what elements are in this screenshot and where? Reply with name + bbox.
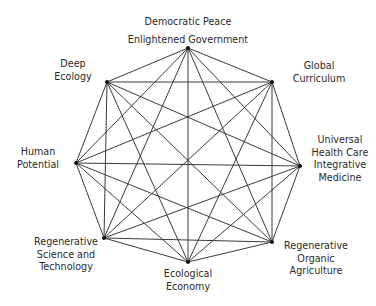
label-line: Integrative	[305, 159, 375, 172]
node-top	[186, 46, 190, 50]
label-deep-ecology: Deep Ecology	[48, 58, 98, 83]
label-line: Enlightened Government	[118, 34, 258, 47]
label-line: Ecology	[48, 71, 98, 84]
label-line: Health Care	[305, 147, 375, 160]
node-right	[298, 164, 302, 168]
edge-right-bottom-left	[104, 166, 300, 238]
label-line: Economy	[153, 281, 223, 294]
label-line: Ecological	[153, 268, 223, 281]
edge-bottom-left-top-left	[104, 82, 107, 238]
node-bottom	[186, 260, 190, 264]
node-top-left	[105, 80, 109, 84]
node-left	[74, 161, 78, 165]
edge-bottom-left-left	[76, 163, 104, 238]
label-line: Universal	[305, 134, 375, 147]
edge-top-right-bottom	[188, 82, 272, 262]
edge-left-top-left	[76, 82, 107, 163]
label-line: Potential	[8, 159, 68, 172]
label-line: Organic	[276, 253, 356, 266]
label-regenerative-agriculture: Regenerative Organic Agriculture	[276, 240, 356, 278]
edge-bottom-right-bottom	[188, 242, 272, 262]
label-line: Science and	[26, 249, 106, 262]
edge-top-right-right	[272, 82, 300, 166]
label-democratic-peace: Democratic Peace Enlightened Government	[118, 16, 258, 46]
label-universal-health-care: Universal Health Care Integrative Medici…	[305, 134, 375, 184]
label-line: Global	[284, 60, 354, 73]
label-line: Regenerative	[26, 236, 106, 249]
edge-bottom-bottom-left	[104, 238, 188, 262]
node-bottom-right	[270, 240, 274, 244]
node-top-right	[270, 80, 274, 84]
label-ecological-economy: Ecological Economy	[153, 268, 223, 293]
label-line: Human	[8, 146, 68, 159]
label-regenerative-science: Regenerative Science and Technology	[26, 236, 106, 274]
label-human-potential: Human Potential	[8, 146, 68, 171]
label-line: Agriculture	[276, 265, 356, 278]
edge-bottom-right-top-left	[107, 82, 272, 242]
label-global-curriculum: Global Curriculum	[284, 60, 354, 85]
edge-top-bottom-left	[104, 48, 188, 238]
label-line: Democratic Peace	[118, 16, 258, 29]
edge-right-top-left	[107, 82, 300, 166]
edge-top-top-left	[107, 48, 188, 82]
label-line: Medicine	[305, 172, 375, 185]
edge-bottom-top-left	[107, 82, 188, 262]
label-line: Regenerative	[276, 240, 356, 253]
octagon-diagram: Democratic Peace Enlightened Government …	[0, 0, 376, 306]
label-line: Deep	[48, 58, 98, 71]
label-line: Curriculum	[284, 73, 354, 86]
label-line: Technology	[26, 261, 106, 274]
